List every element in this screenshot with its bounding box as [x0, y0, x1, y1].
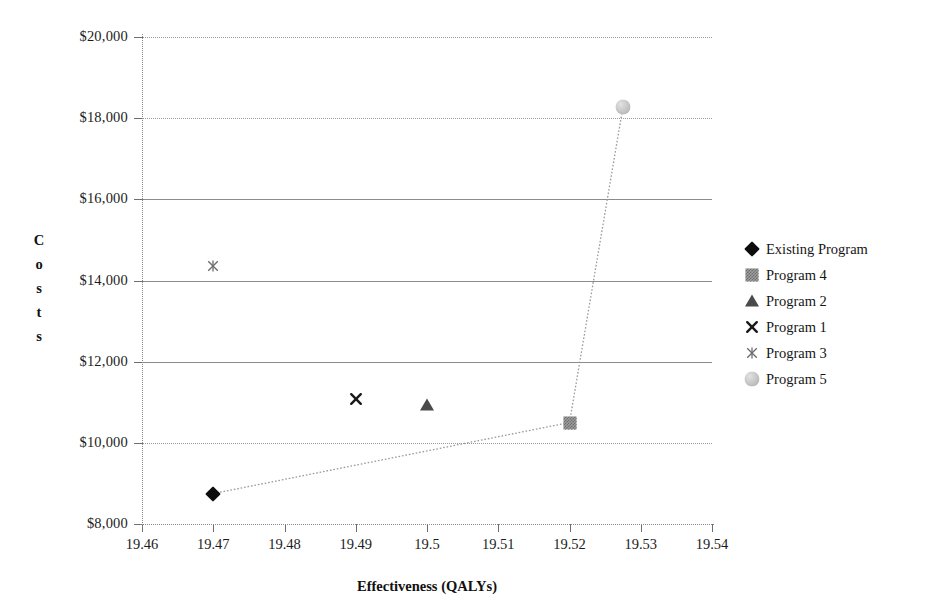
- x-axis-tick: [356, 524, 357, 532]
- x-axis-tick-label: 19.52: [530, 536, 610, 552]
- gridline-horizontal: [142, 281, 712, 282]
- x-axis-tick: [213, 524, 214, 532]
- legend-item-program-4[interactable]: Program 4: [742, 262, 932, 288]
- gridline-horizontal: [142, 118, 712, 119]
- x-axis-tick: [498, 524, 499, 532]
- x-axis-tick-label: 19.51: [458, 536, 538, 552]
- y-axis-line: [142, 34, 143, 527]
- legend-item-label: Program 5: [766, 370, 827, 388]
- y-axis-title-letter: s: [26, 324, 52, 348]
- data-point-program-4: [563, 416, 576, 429]
- x-axis-tick: [712, 524, 713, 532]
- x-axis-line: [140, 524, 714, 525]
- triangle-icon: [742, 291, 762, 311]
- gridline-horizontal: [142, 443, 712, 444]
- legend-item-program-5[interactable]: Program 5: [742, 366, 932, 392]
- x-axis-tick: [427, 524, 428, 532]
- legend-item-label: Existing Program: [766, 240, 868, 258]
- cost-effectiveness-scatter-chart: $8,000$10,000$12,000$14,000$16,000$18,00…: [0, 0, 935, 616]
- x-axis-tick-label: 19.48: [245, 536, 325, 552]
- legend-item-label: Program 2: [766, 292, 827, 310]
- data-point-existing-program: [205, 486, 221, 502]
- legend-item-existing-program[interactable]: Existing Program: [742, 236, 932, 262]
- x-axis-tick-label: 19.53: [601, 536, 681, 552]
- y-axis-tick-label: $16,000: [8, 191, 128, 206]
- gridline-horizontal: [142, 199, 712, 200]
- y-axis-title-letter: C: [26, 228, 52, 252]
- x-axis-tick: [641, 524, 642, 532]
- data-point-program-1: [348, 391, 364, 407]
- legend-item-label: Program 3: [766, 344, 827, 362]
- legend-item-label: Program 4: [766, 266, 827, 284]
- legend-item-program-2[interactable]: Program 2: [742, 288, 932, 314]
- y-axis-title-letter: o: [26, 252, 52, 276]
- cross-icon: [742, 317, 762, 337]
- x-axis-tick-label: 19.46: [102, 536, 182, 552]
- y-axis-tick-label: $10,000: [8, 435, 128, 450]
- data-point-program-5: [615, 100, 630, 115]
- x-axis-title: Effectiveness (QALYs): [142, 578, 712, 595]
- y-axis-tick-label: $20,000: [8, 29, 128, 44]
- data-point-program-2: [420, 398, 434, 410]
- y-axis-title: Costs: [26, 228, 52, 348]
- gridline-horizontal: [142, 37, 712, 38]
- legend-item-program-3[interactable]: Program 3: [742, 340, 932, 366]
- x-axis-tick-label: 19.54: [672, 536, 752, 552]
- chart-legend: Existing ProgramProgram 4Program 2Progra…: [742, 236, 932, 392]
- x-axis-tick: [570, 524, 571, 532]
- x-thin-icon: [742, 343, 762, 363]
- legend-item-program-1[interactable]: Program 1: [742, 314, 932, 340]
- square-icon: [742, 265, 762, 285]
- x-axis-tick-label: 19.47: [173, 536, 253, 552]
- diamond-icon: [742, 239, 762, 259]
- y-axis-tick-label: $8,000: [8, 516, 128, 531]
- y-axis-title-letter: s: [26, 276, 52, 300]
- x-axis-tick: [285, 524, 286, 532]
- x-axis-tick-label: 19.5: [387, 536, 467, 552]
- gridline-horizontal: [142, 362, 712, 363]
- x-axis-tick-label: 19.49: [316, 536, 396, 552]
- y-axis-title-letter: t: [26, 300, 52, 324]
- circle-icon: [742, 369, 762, 389]
- y-axis-tick-label: $12,000: [8, 354, 128, 369]
- data-point-program-3: [205, 258, 221, 274]
- y-axis-tick-label: $18,000: [8, 110, 128, 125]
- legend-item-label: Program 1: [766, 318, 827, 336]
